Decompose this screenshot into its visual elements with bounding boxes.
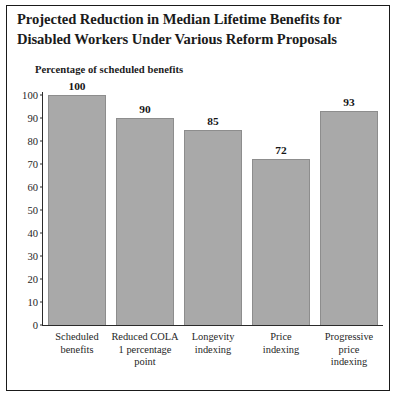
chart-figure: Projected Reduction in Median Lifetime B…	[0, 0, 396, 395]
chart-title-line-2: Disabled Workers Under Various Reform Pr…	[17, 30, 379, 50]
chart-title: Projected Reduction in Median Lifetime B…	[17, 10, 379, 49]
y-tick-label: 70	[27, 159, 38, 170]
x-axis-labels: ScheduledbenefitsReduced COLA1 percentag…	[43, 331, 383, 391]
x-tick-label-line: indexing	[309, 356, 389, 369]
bar-group: 90	[116, 95, 174, 325]
x-tick-label-line: price	[309, 344, 389, 357]
x-tick-label: Progressivepriceindexing	[309, 331, 389, 369]
y-tick-label: 30	[27, 251, 38, 262]
bar[interactable]	[116, 118, 174, 325]
y-tick-label: 80	[27, 136, 38, 147]
bar-group: 100	[48, 95, 106, 325]
plot-area: 0102030405060708090100 10090857293	[43, 95, 383, 325]
bar-value-label: 90	[116, 103, 174, 115]
x-tick-label-line: point	[105, 356, 185, 369]
bar[interactable]	[252, 159, 310, 325]
chart-title-line-1: Projected Reduction in Median Lifetime B…	[17, 10, 379, 30]
y-tick-label: 10	[27, 297, 38, 308]
y-tick-label: 0	[33, 320, 38, 331]
y-tick-label: 40	[27, 228, 38, 239]
y-tick-label: 90	[27, 113, 38, 124]
bar-value-label: 100	[48, 80, 106, 92]
bar-value-label: 72	[252, 144, 310, 156]
y-tick-label: 100	[22, 90, 38, 101]
bar[interactable]	[184, 130, 242, 326]
chart-subtitle: Percentage of scheduled benefits	[35, 64, 183, 75]
x-axis-line	[42, 325, 383, 326]
bar-value-label: 93	[320, 96, 378, 108]
bar-group: 93	[320, 95, 378, 325]
y-tick-label: 50	[27, 205, 38, 216]
y-tick-label: 20	[27, 274, 38, 285]
bar-group: 85	[184, 95, 242, 325]
bar-group: 72	[252, 95, 310, 325]
bar[interactable]	[320, 111, 378, 325]
bar-value-label: 85	[184, 115, 242, 127]
bar-series: 10090857293	[43, 95, 383, 325]
x-tick-label-line: Progressive	[309, 331, 389, 344]
y-tick-label: 60	[27, 182, 38, 193]
bar[interactable]	[48, 95, 106, 325]
